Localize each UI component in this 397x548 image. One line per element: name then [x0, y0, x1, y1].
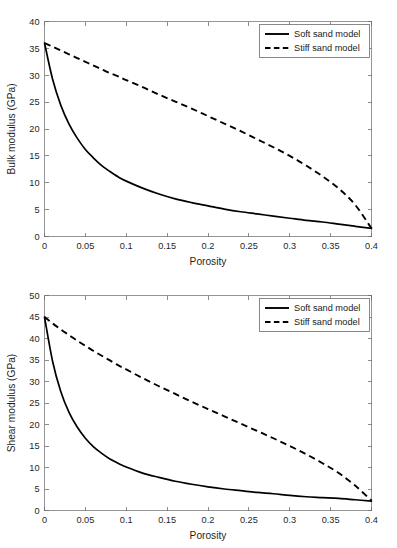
shear-legend-label-stiff-sand-model: Stiff sand model: [294, 317, 360, 327]
x-tick-label: 0.05: [76, 241, 94, 251]
y-tick-label: 30: [29, 71, 39, 81]
shear-legend-label-soft-sand-model: Soft sand model: [294, 303, 360, 313]
x-tick-label: 0.2: [202, 241, 215, 251]
y-tick-label: 5: [34, 484, 39, 494]
x-tick-label: 0: [42, 515, 47, 525]
x-tick-label: 0.35: [322, 515, 340, 525]
shear-y-axis-label: Shear modulus (GPa): [6, 354, 17, 453]
y-tick-label: 25: [29, 97, 39, 107]
shear-modulus-plot: 00.050.10.150.20.250.30.350.405101520253…: [0, 274, 397, 548]
bulk-legend[interactable]: Soft sand model Stiff sand model: [260, 25, 370, 58]
y-tick-label: 25: [29, 398, 39, 408]
x-tick-label: 0.4: [365, 241, 378, 251]
y-tick-label: 10: [29, 463, 39, 473]
y-tick-label: 5: [34, 205, 39, 215]
x-tick-label: 0.35: [322, 241, 340, 251]
y-tick-label: 20: [29, 124, 39, 134]
x-tick-label: 0.25: [240, 241, 258, 251]
y-tick-label: 15: [29, 151, 39, 161]
y-tick-label: 15: [29, 441, 39, 451]
x-tick-label: 0.25: [240, 515, 258, 525]
y-tick-label: 20: [29, 420, 39, 430]
bulk-legend-label-soft-sand-model: Soft sand model: [294, 29, 360, 39]
y-tick-label: 30: [29, 377, 39, 387]
x-tick-label: 0.4: [365, 515, 378, 525]
x-tick-label: 0.1: [120, 241, 133, 251]
figure-container: 00.050.10.150.20.250.30.350.405101520253…: [0, 0, 397, 548]
x-tick-label: 0.15: [158, 515, 176, 525]
chart-panel-bulk-modulus: 00.050.10.150.20.250.30.350.405101520253…: [0, 0, 397, 274]
x-tick-label: 0.2: [202, 515, 215, 525]
y-tick-label: 35: [29, 44, 39, 54]
y-tick-label: 45: [29, 312, 39, 322]
x-tick-label: 0.05: [76, 515, 94, 525]
y-tick-label: 0: [34, 232, 39, 242]
y-tick-label: 40: [29, 17, 39, 27]
x-tick-label: 0.3: [283, 515, 296, 525]
y-tick-label: 50: [29, 291, 39, 301]
y-tick-label: 40: [29, 334, 39, 344]
bulk-legend-label-stiff-sand-model: Stiff sand model: [294, 43, 360, 53]
shear-legend[interactable]: Soft sand model Stiff sand model: [260, 299, 370, 332]
chart-panel-shear-modulus: 00.050.10.150.20.250.30.350.405101520253…: [0, 274, 397, 548]
x-tick-label: 0.15: [158, 241, 176, 251]
bulk-y-axis-label: Bulk modulus (GPa): [6, 83, 17, 174]
y-tick-label: 0: [34, 506, 39, 516]
bulk-modulus-plot: 00.050.10.150.20.250.30.350.405101520253…: [0, 0, 397, 274]
bulk-x-axis-label: Porosity: [190, 256, 228, 267]
x-tick-label: 0.1: [120, 515, 133, 525]
shear-x-axis-label: Porosity: [190, 530, 228, 541]
x-tick-label: 0: [42, 241, 47, 251]
y-tick-label: 10: [29, 178, 39, 188]
x-tick-label: 0.3: [283, 241, 296, 251]
y-tick-label: 35: [29, 355, 39, 365]
